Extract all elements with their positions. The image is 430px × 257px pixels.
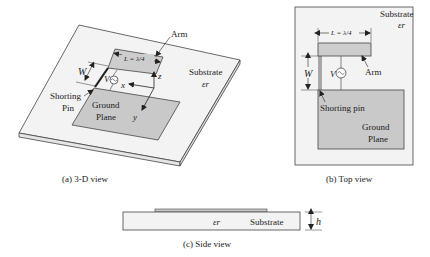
caption-top-view: (b) Top view — [326, 174, 373, 184]
side-view: εr Substrate h (c) Side view — [123, 209, 322, 249]
permittivity-label-3d: εr — [202, 79, 210, 89]
antenna-diagram: L = λ/4 W Arm V z x y Substrate εr Short… — [0, 0, 430, 257]
shorting-pin-label-3d-line1: Shorting — [50, 91, 82, 101]
arm-top — [318, 43, 371, 56]
caption-side-view: (c) Side view — [183, 239, 231, 249]
x-axis-label: x — [120, 80, 125, 90]
ground-plane-label-3d-line2: Plane — [96, 112, 116, 122]
length-label-3d: L = λ/4 — [123, 55, 145, 63]
three-d-view: L = λ/4 W Arm V z x y Substrate εr Short… — [19, 25, 240, 184]
permittivity-label-top: εr — [398, 20, 406, 30]
permittivity-label-side: εr — [213, 217, 221, 227]
y-axis-label: y — [132, 112, 137, 122]
metal-layer-side — [155, 209, 267, 212]
caption-3d-view: (a) 3-D view — [62, 174, 108, 184]
shorting-pin-label-3d-line2: Pin — [62, 103, 75, 113]
arm-label-3d: Arm — [171, 29, 188, 39]
z-axis-label: z — [157, 71, 162, 81]
shorting-pin-label-top: Shorting pin — [320, 103, 365, 113]
ground-plane-label-3d-line1: Ground — [92, 100, 120, 110]
height-label-side: h — [316, 216, 321, 227]
arm-label-top: Arm — [365, 67, 382, 77]
substrate-label-side: Substrate — [250, 217, 284, 227]
length-label-top: L = λ/4 — [330, 29, 352, 37]
substrate-label-top: Substrate — [380, 9, 414, 19]
ground-plane-top — [318, 90, 404, 149]
ground-plane-label-top-line1: Ground — [362, 122, 390, 132]
ground-plane-label-top-line2: Plane — [368, 134, 388, 144]
substrate-label-3d: Substrate — [189, 67, 223, 77]
top-view: V L = λ/4 W Substrate εr Arm Shorting pi… — [295, 7, 414, 184]
